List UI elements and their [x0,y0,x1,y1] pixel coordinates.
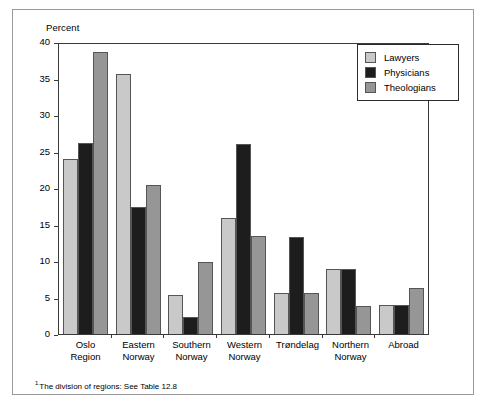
x-axis-labels: Oslo RegionEastern NorwaySouthern Norway… [59,339,430,362]
bar-theologians[interactable] [198,262,213,334]
bar-physicians[interactable] [78,143,93,334]
x-axis-label: Eastern Norway [112,339,165,362]
bar-physicians[interactable] [183,317,198,334]
footnote: 1The division of regions: See Table 12.8 [35,380,177,391]
bar-group [217,44,270,334]
bar-physicians[interactable] [236,144,251,334]
x-axis-label: Trøndelag [271,339,324,362]
bar-lawyers[interactable] [379,305,394,334]
bar-lawyers[interactable] [168,295,183,334]
y-tick-mark [54,189,58,190]
bar-group [164,44,217,334]
bar-theologians[interactable] [146,185,161,334]
y-tick-label: 30 [39,109,50,120]
bar-lawyers[interactable] [326,269,341,334]
y-tick-mark [54,335,58,336]
y-tick-mark [54,299,58,300]
y-tick-mark [54,80,58,81]
legend-label: Lawyers [384,52,419,63]
footnote-text: The division of regions: See Table 12.8 [39,382,177,391]
y-tick-label: 10 [39,255,50,266]
y-tick-mark [54,226,58,227]
bar-lawyers[interactable] [63,159,78,334]
bar-lawyers[interactable] [116,74,131,334]
y-tick-mark [54,262,58,263]
footnote-marker: 1 [35,380,38,386]
x-tick-mark [322,334,323,338]
bar-theologians[interactable] [356,306,371,334]
legend-item[interactable]: Theologians [365,80,452,95]
y-tick-label: 35 [39,73,50,84]
x-tick-mark [163,334,164,338]
bar-group [112,44,165,334]
bar-lawyers[interactable] [274,293,289,334]
bar-theologians[interactable] [409,288,424,334]
legend-item[interactable]: Lawyers [365,50,452,65]
x-tick-mark [216,334,217,338]
x-axis-label: Southern Norway [165,339,218,362]
x-axis-label: Northern Norway [324,339,377,362]
legend-swatch-icon [365,82,376,93]
y-axis-title: Percent [46,22,79,33]
legend-swatch-icon [365,67,376,78]
bar-group [270,44,323,334]
bar-theologians[interactable] [93,52,108,334]
y-tick-label: 40 [39,36,50,47]
bar-group [59,44,112,334]
bar-physicians[interactable] [131,207,146,334]
y-tick-mark [54,153,58,154]
y-tick-mark [54,116,58,117]
y-tick-label: 0 [45,328,50,339]
bar-physicians[interactable] [289,237,304,334]
x-tick-mark [111,334,112,338]
bar-physicians[interactable] [394,305,409,334]
y-tick-mark [54,43,58,44]
x-tick-mark [374,334,375,338]
x-axis-label: Oslo Region [59,339,112,362]
y-tick-label: 20 [39,182,50,193]
legend-swatch-icon [365,52,376,63]
x-axis-label: Western Norway [218,339,271,362]
bar-lawyers[interactable] [221,218,236,334]
bar-physicians[interactable] [341,269,356,334]
figure-panel: Percent 4035302520151050 Oslo RegionEast… [12,9,474,395]
y-tick-label: 15 [39,219,50,230]
bar-theologians[interactable] [251,236,266,334]
x-axis-label: Abroad [377,339,430,362]
chart-legend: LawyersPhysiciansTheologians [357,44,459,101]
y-tick-label: 5 [45,292,50,303]
legend-label: Theologians [384,82,436,93]
legend-item[interactable]: Physicians [365,65,452,80]
y-tick-label: 25 [39,146,50,157]
x-tick-mark [269,334,270,338]
legend-label: Physicians [384,67,429,78]
bar-theologians[interactable] [304,293,319,334]
